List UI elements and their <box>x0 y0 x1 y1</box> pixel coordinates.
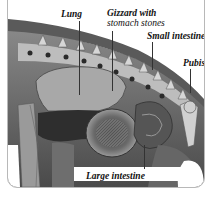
label-gizzard-line1: Gizzard with <box>107 8 165 18</box>
gizzard-leader-line <box>112 31 113 91</box>
label-large-intestine: Large intestine <box>86 171 145 181</box>
label-gizzard: Gizzard with stomach stones <box>107 8 165 28</box>
pubis-leader-line <box>190 69 191 93</box>
anatomical-illustration <box>8 0 204 187</box>
lung-leader-line <box>79 21 80 95</box>
large-intestine-leader-line <box>144 145 145 169</box>
label-gizzard-line2: stomach stones <box>107 18 165 28</box>
label-small-intestine: Small intestine <box>147 31 205 41</box>
label-pubis: Pubis <box>183 58 205 68</box>
small-intestine-leader-line <box>152 42 153 70</box>
label-lung: Lung <box>61 9 82 19</box>
figure-frame: ...y ........... y Lung Gizzard with sto… <box>7 0 205 188</box>
